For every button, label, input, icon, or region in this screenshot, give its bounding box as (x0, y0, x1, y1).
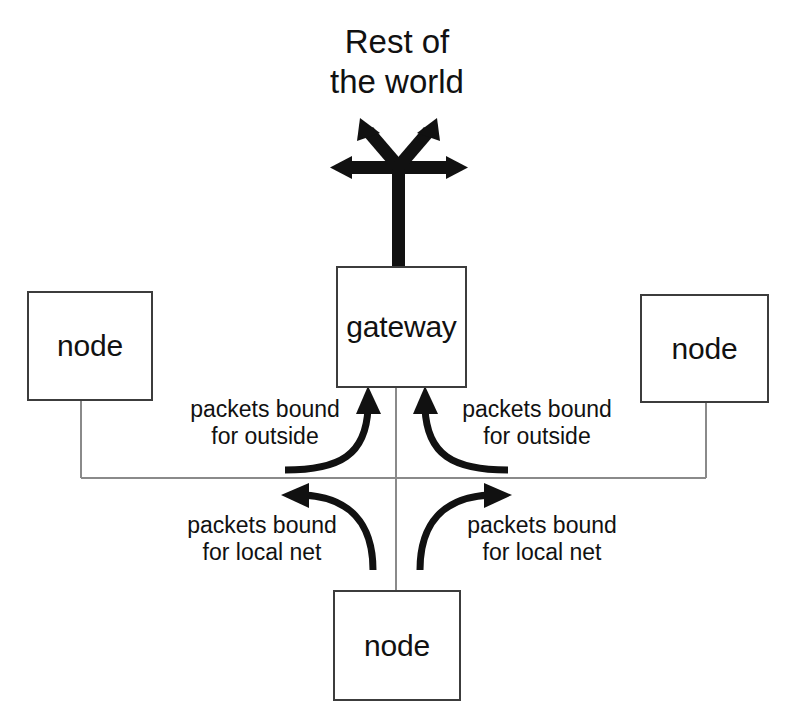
gateway-label: gateway (346, 312, 456, 342)
network-diagram: Rest of the world (0, 0, 794, 725)
curved-arrow-right-head (484, 483, 512, 508)
label-local-right-line-2: for local net (437, 539, 647, 566)
label-out-left-line-1: packets bound (165, 396, 365, 423)
curved-arrow-up-right-head (413, 386, 438, 414)
gateway-node[interactable]: gateway (336, 266, 467, 388)
node-right-label: node (672, 334, 738, 364)
label-packets-outside-left: packets bound for outside (165, 396, 365, 450)
label-packets-outside-right: packets bound for outside (437, 396, 637, 450)
label-local-left-line-2: for local net (157, 539, 367, 566)
node-bottom[interactable]: node (333, 590, 461, 701)
label-out-left-line-2: for outside (165, 423, 365, 450)
four-way-arrow-icon (330, 118, 468, 268)
node-left[interactable]: node (27, 291, 153, 401)
node-right[interactable]: node (640, 294, 769, 403)
label-local-left-line-1: packets bound (157, 512, 367, 539)
label-local-right-line-1: packets bound (437, 512, 647, 539)
label-out-right-line-2: for outside (437, 423, 637, 450)
label-packets-local-right: packets bound for local net (437, 512, 647, 566)
label-packets-local-left: packets bound for local net (157, 512, 367, 566)
node-bottom-label: node (364, 631, 430, 661)
label-out-right-line-1: packets bound (437, 396, 637, 423)
curved-arrow-left-head (281, 483, 309, 508)
node-left-label: node (57, 331, 123, 361)
